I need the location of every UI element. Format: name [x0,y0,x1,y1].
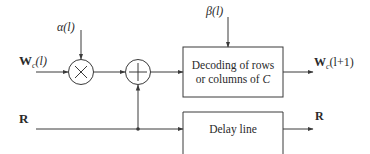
r-input-label: R [19,112,28,125]
w-input-label: Wc(l) [19,54,47,67]
beta-label: β(l) [206,5,223,17]
w-output-label: Wc(l+1) [314,56,354,68]
r-output-label: R [315,110,324,122]
alpha-label: α(l) [57,21,75,33]
delay-box-label: Delay line [183,122,283,136]
block-diagram: Wc(l) α(l) β(l) R Decoding of rows or co… [0,0,370,154]
junction-dot [136,127,140,131]
decoder-box-label: Decoding of rows or columns of C [183,58,283,86]
